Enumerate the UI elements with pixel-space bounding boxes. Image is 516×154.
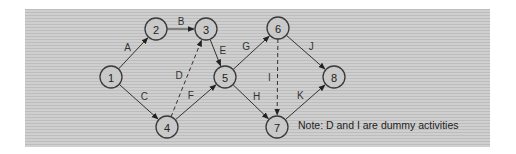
activity-label-d: D: [175, 70, 182, 81]
activity-label-k: K: [297, 90, 304, 101]
svg-text:1: 1: [108, 72, 114, 84]
activity-arrow-a: [119, 38, 148, 69]
svg-text:7: 7: [274, 122, 280, 134]
activity-label-g: G: [242, 41, 250, 52]
svg-text:6: 6: [275, 23, 281, 35]
svg-text:2: 2: [153, 24, 159, 36]
activity-label-b: B: [178, 16, 185, 27]
svg-text:4: 4: [164, 122, 170, 134]
event-node-2: 2: [145, 18, 167, 40]
event-node-8: 8: [323, 66, 345, 88]
svg-text:3: 3: [203, 24, 209, 36]
activity-label-h: H: [253, 91, 260, 102]
event-node-7: 7: [266, 116, 288, 138]
note-text: Note: D and I are dummy activities: [298, 119, 458, 131]
event-node-5: 5: [214, 66, 236, 88]
activity-arrow-k: [285, 85, 325, 120]
activity-arrow-h: [233, 85, 268, 119]
activity-arrow-c: [119, 84, 158, 119]
activity-arrow-g: [233, 36, 269, 69]
activity-label-c: C: [141, 91, 148, 102]
svg-text:5: 5: [222, 72, 228, 84]
activity-label-f: F: [188, 90, 194, 101]
event-node-4: 4: [156, 116, 178, 138]
activity-label-i: I: [268, 72, 271, 83]
activity-arrow-j: [286, 35, 325, 69]
event-node-1: 1: [100, 66, 122, 88]
activity-label-j: J: [309, 41, 314, 52]
activity-arrow-i: [277, 39, 278, 115]
event-node-3: 3: [195, 18, 217, 40]
activity-label-e: E: [220, 45, 227, 56]
svg-text:8: 8: [331, 72, 337, 84]
event-node-6: 6: [267, 17, 289, 39]
activity-label-a: A: [124, 42, 131, 53]
